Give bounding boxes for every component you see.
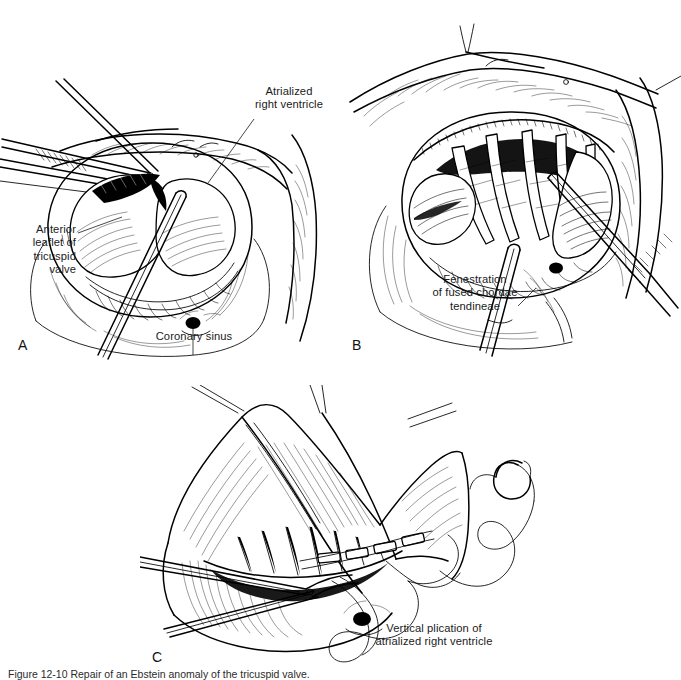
panel-b-lineart xyxy=(340,20,681,365)
panel-letter-b: B xyxy=(352,338,362,352)
panel-letter-c: C xyxy=(152,650,162,664)
panel-a-illustration: Atrialized right ventricle Anterior leaf… xyxy=(0,55,345,365)
panel-c-illustration: Vertical plication of atrialized right v… xyxy=(140,385,560,665)
label-coronary-sinus: Coronary sinus xyxy=(140,330,248,343)
label-vertical-plication-of-atrialized-right-ventricle: Vertical plication of atrialized right v… xyxy=(352,622,516,649)
figure-caption: Figure 12-10 Repair of an Ebstein anomal… xyxy=(8,668,668,680)
panel-letter-a: A xyxy=(18,338,28,352)
label-anterior-leaflet-of-tricuspid-valve: Anterior leaflet of tricuspid valve xyxy=(2,223,76,277)
panel-b-illustration: Fenestration of fused chordae tendineae xyxy=(340,20,681,365)
label-fenestration-of-fused-chordae-tendineae: Fenestration of fused chordae tendineae xyxy=(410,273,540,313)
label-atrialized-right-ventricle: Atrialized right ventricle xyxy=(230,85,348,112)
